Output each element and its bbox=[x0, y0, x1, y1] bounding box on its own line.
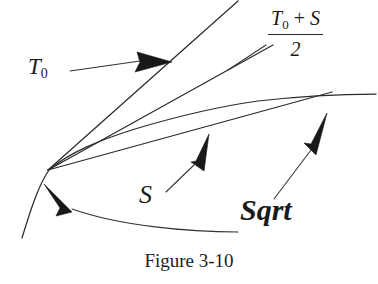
fraction-numerator: T0 + S bbox=[268, 8, 323, 32]
fraction-numerator-operator: + bbox=[289, 7, 310, 29]
origin-leader-curve bbox=[72, 209, 238, 232]
line-t0 bbox=[48, 1, 238, 170]
half-sum-leader-line bbox=[228, 45, 266, 70]
fraction-bar bbox=[268, 34, 323, 35]
label-s: S bbox=[139, 182, 152, 208]
fraction-denominator: 2 bbox=[268, 38, 323, 59]
label-s-text: S bbox=[139, 180, 152, 209]
s-leader-line bbox=[166, 165, 194, 192]
t0-leader-line bbox=[70, 61, 140, 71]
label-sqrt: Sqrt bbox=[240, 195, 292, 225]
figure-caption: Figure 3-10 bbox=[0, 250, 378, 272]
fraction-numerator-base: T bbox=[271, 7, 282, 29]
fraction-numerator-second: S bbox=[310, 7, 320, 29]
label-t0-subscript: 0 bbox=[41, 66, 48, 81]
label-t0: T0 bbox=[28, 55, 48, 81]
figure-container: .ink { fill: none; stroke: #2b2b2b; stro… bbox=[0, 0, 378, 284]
origin-arrowhead-icon bbox=[44, 184, 72, 216]
label-half-sum-fraction: T0 + S 2 bbox=[268, 8, 323, 59]
line-s bbox=[48, 92, 332, 170]
label-sqrt-text: Sqrt bbox=[240, 193, 292, 226]
sqrt-arrowhead-icon bbox=[304, 113, 327, 155]
label-t0-base: T bbox=[28, 54, 41, 79]
sqrt-leader-line bbox=[274, 150, 311, 199]
t0-arrowhead-icon bbox=[135, 52, 172, 72]
